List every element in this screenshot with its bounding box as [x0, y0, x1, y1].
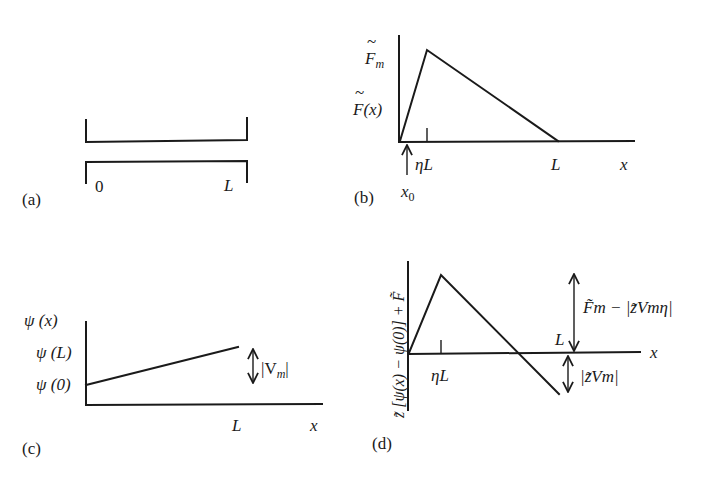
panel-a: 0 L (a) [22, 118, 247, 209]
y-tick-psi-0: ψ (0) [36, 375, 71, 394]
tick-label-L: L [554, 330, 564, 349]
panel-a-label: (a) [22, 190, 41, 209]
x-axis [86, 404, 322, 405]
tick-label-L: L [231, 416, 241, 435]
force-profile-line [400, 50, 558, 141]
figure-canvas: 0 L (a) Fm ~ F(x) ~ ηL L x x0 (b) ψ (x) … [0, 0, 703, 477]
upper-delta-label: F̃m − |z̃Vmη| [582, 298, 673, 317]
panel-d: z̃ [ψ(x) − ψ(0)] + F̃ ηL L x F̃m − |z̃Vm… [372, 262, 673, 453]
tick-label-L: L [550, 155, 560, 174]
y-tick-psi-L: ψ (L) [36, 343, 72, 362]
y-label-Fm: Fm [364, 49, 384, 71]
lower-bracket [86, 161, 247, 183]
x-axis [399, 141, 634, 142]
tick-L: L [223, 176, 233, 195]
tilde-Fx: ~ [355, 83, 364, 102]
tilde-Fm: ~ [367, 32, 376, 51]
y-axis-label: ψ (x) [24, 311, 58, 330]
lower-delta-label: |z̃Vm| [580, 367, 619, 386]
delta-Vm-label: |Vm| [261, 359, 289, 381]
x-axis [408, 352, 640, 354]
tick-label-eta-L: ηL [415, 155, 433, 174]
x0-label: x0 [400, 182, 415, 204]
panel-c: ψ (x) ψ (L) ψ (0) L x |Vm| (c) [22, 311, 322, 458]
tick-label-eta-L: ηL [431, 366, 449, 385]
potential-line [86, 347, 238, 385]
y-axis-label: z̃ [ψ(x) − ψ(0)] + F̃ [390, 291, 408, 419]
panel-b: Fm ~ F(x) ~ ηL L x x0 (b) [352, 32, 634, 207]
panel-c-label: (c) [22, 439, 41, 458]
y-axis-label: F(x) [352, 100, 383, 119]
x-axis-label: x [309, 416, 318, 435]
tick-zero: 0 [95, 177, 104, 196]
panel-d-label: (d) [372, 434, 392, 453]
x-axis-label: x [619, 155, 628, 174]
x-axis-label: x [649, 343, 658, 362]
panel-b-label: (b) [354, 188, 374, 207]
upper-bracket [86, 118, 247, 142]
